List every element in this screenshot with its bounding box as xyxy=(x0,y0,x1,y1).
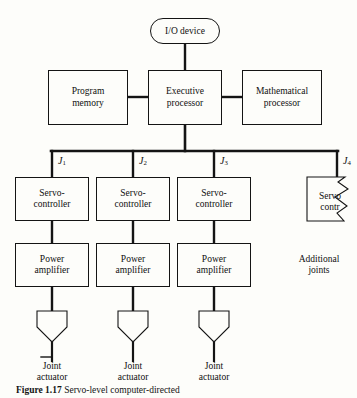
label-joint-actuator-1: Joint actuator xyxy=(17,361,87,383)
additional-joints-note: Additional joints xyxy=(283,254,355,276)
bus-label-j2-subscript: 2 xyxy=(143,159,146,166)
servo-controller-2-line2: controller xyxy=(115,199,152,210)
servo-controller-4-line1: Servo xyxy=(307,191,353,202)
joint-actuator-1-line1: Joint xyxy=(17,361,87,372)
joint-actuator-2-line2: actuator xyxy=(98,372,168,383)
servo-controller-4-text: Servo contr xyxy=(307,191,353,213)
additional-joints-line1: Additional xyxy=(283,254,355,265)
executive-processor-label-line1: Executive xyxy=(166,86,204,97)
bus-label-j3: J3 xyxy=(220,155,228,166)
node-servo-controller-1: Servo- controller xyxy=(15,177,89,221)
power-amplifier-3-line1: Power xyxy=(202,254,226,265)
bus-label-j4: J4 xyxy=(343,155,351,166)
actuator-symbol-2 xyxy=(118,311,148,342)
mathematical-processor-label-line1: Mathematical xyxy=(256,86,308,97)
bus-label-j1: J1 xyxy=(58,155,66,166)
joint-actuator-1-line2: actuator xyxy=(17,372,87,383)
node-power-amplifier-3: Power amplifier xyxy=(177,243,251,287)
servo-controller-3-line2: controller xyxy=(196,199,233,210)
servo-controller-1-line1: Servo- xyxy=(39,188,64,199)
joint-actuator-3-line2: actuator xyxy=(179,372,249,383)
servo-controller-3-line1: Servo- xyxy=(201,188,226,199)
power-amplifier-1-line1: Power xyxy=(40,254,64,265)
additional-joints-line2: joints xyxy=(283,265,355,276)
power-amplifier-3-line2: amplifier xyxy=(197,265,232,276)
bus-label-j3-subscript: 3 xyxy=(224,159,227,166)
node-executive-processor: Executive processor xyxy=(148,70,222,125)
program-memory-label-line1: Program xyxy=(72,86,105,97)
bus-label-j2: J2 xyxy=(139,155,147,166)
bus-label-j1-subscript: 1 xyxy=(62,159,65,166)
figure-caption-number: Figure 1.17 xyxy=(16,385,62,395)
program-memory-label-line2: memory xyxy=(72,98,104,109)
io-device-label: I/O device xyxy=(165,26,205,36)
figure-caption-text: Servo-level computer-directed xyxy=(64,385,180,395)
power-amplifier-2-line2: amplifier xyxy=(116,265,151,276)
node-power-amplifier-1: Power amplifier xyxy=(15,243,89,287)
label-joint-actuator-3: Joint actuator xyxy=(179,361,249,383)
node-program-memory: Program memory xyxy=(48,70,128,125)
servo-controller-1-line2: controller xyxy=(34,199,71,210)
executive-processor-label-line2: processor xyxy=(167,98,203,109)
mathematical-processor-label-line2: processor xyxy=(264,98,300,109)
figure-container: I/O device Program memory Executive proc… xyxy=(0,0,357,398)
power-amplifier-1-line2: amplifier xyxy=(35,265,70,276)
label-joint-actuator-2: Joint actuator xyxy=(98,361,168,383)
actuator-symbol-3 xyxy=(199,311,229,342)
bus-label-j4-subscript: 4 xyxy=(347,159,350,166)
node-power-amplifier-2: Power amplifier xyxy=(96,243,170,287)
node-mathematical-processor: Mathematical processor xyxy=(242,70,322,125)
joint-actuator-2-line1: Joint xyxy=(98,361,168,372)
servo-controller-2-line1: Servo- xyxy=(120,188,145,199)
node-servo-controller-2: Servo- controller xyxy=(96,177,170,221)
node-io-device: I/O device xyxy=(150,18,220,44)
actuator-symbol-1 xyxy=(37,311,67,342)
servo-controller-4-line2: contr xyxy=(307,202,353,213)
joint-actuator-3-line1: Joint xyxy=(179,361,249,372)
node-servo-controller-4-truncated: Servo contr xyxy=(307,177,357,221)
node-servo-controller-3: Servo- controller xyxy=(177,177,251,221)
power-amplifier-2-line1: Power xyxy=(121,254,145,265)
figure-caption: Figure 1.17 Servo-level computer-directe… xyxy=(16,385,346,396)
